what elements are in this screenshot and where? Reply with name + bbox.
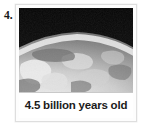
answer-card[interactable]: 4.5 billion years old [15, 4, 137, 122]
planet-illustration [19, 8, 133, 92]
card-inner: 4.5 billion years old [19, 8, 133, 118]
caption-band: 4.5 billion years old [19, 92, 133, 118]
earth-from-space-photo [19, 8, 133, 92]
caption-label: 4.5 billion years old [25, 99, 128, 112]
screenshot-root: 4. [0, 0, 142, 129]
